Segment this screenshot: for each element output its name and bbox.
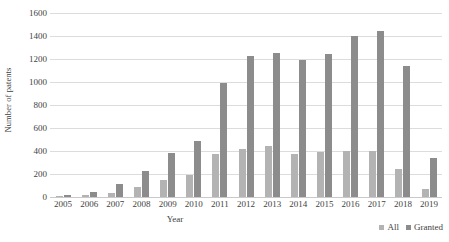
bar-all-2005 [56,196,63,197]
x-axis-tick-2019: 2019 [416,199,442,213]
bar-group-2007 [102,13,128,197]
bar-granted-2010 [194,141,201,197]
bar-all-2009 [160,180,167,197]
bar-all-2011 [212,154,219,197]
x-axis-tick-2008: 2008 [128,199,154,213]
bar-group-2011 [207,13,233,197]
y-axis-tick-labels: 16001400120010008006004002000 [16,0,50,205]
bar-granted-2012 [247,56,254,197]
y-axis-title-label: Number of patents [3,68,13,133]
x-axis-tick-2006: 2006 [76,199,102,213]
bar-group-2010 [181,13,207,197]
bar-granted-2016 [351,36,358,197]
y-axis-tick-1200: 1200 [29,54,47,64]
bar-granted-2005 [64,195,71,197]
x-axis-tick-2017: 2017 [364,199,390,213]
y-axis-tick-600: 600 [34,123,48,133]
x-axis-title-label: Year [167,214,184,224]
x-axis-tick-2013: 2013 [259,199,285,213]
bar-granted-2017 [377,31,384,197]
x-axis-tick-2015: 2015 [311,199,337,213]
bar-all-2014 [291,154,298,197]
bar-group-2018 [390,13,416,197]
bar-all-2018 [395,169,402,197]
bar-all-2019 [422,189,429,197]
bar-granted-2006 [90,192,97,197]
bars-layer [50,13,442,197]
x-axis-tick-2014: 2014 [285,199,311,213]
bar-group-2009 [155,13,181,197]
y-axis-title: Number of patents [0,0,16,200]
legend-swatch-icon-granted [406,225,411,230]
x-axis-tick-2012: 2012 [233,199,259,213]
y-axis-tick-400: 400 [34,146,48,156]
x-axis-tick-2016: 2016 [338,199,364,213]
x-axis-tick-2011: 2011 [207,199,233,213]
bar-granted-2008 [142,171,149,197]
bar-granted-2019 [430,158,437,197]
bar-group-2016 [338,13,364,197]
bar-granted-2013 [273,53,280,197]
bar-group-2006 [76,13,102,197]
bar-all-2016 [343,151,350,197]
bar-group-2013 [259,13,285,197]
x-axis-tick-2007: 2007 [102,199,128,213]
bar-all-2007 [108,193,115,197]
x-axis-tick-labels: 2005200620072008200920102011201220132014… [50,199,442,213]
x-axis-tick-2018: 2018 [390,199,416,213]
bar-granted-2015 [325,54,332,197]
y-axis-tick-1000: 1000 [29,77,47,87]
legend-label-granted: Granted [414,222,443,232]
bar-all-2017 [369,151,376,197]
bar-group-2008 [128,13,154,197]
x-axis-title: Year [50,214,300,224]
bar-granted-2011 [220,83,227,197]
bar-all-2006 [82,195,89,197]
y-axis-tick-1600: 1600 [29,8,47,18]
legend-entry-all[interactable]: All [379,222,399,232]
x-axis-tick-2010: 2010 [181,199,207,213]
bar-all-2015 [317,152,324,197]
legend-entry-granted[interactable]: Granted [406,222,443,232]
bar-group-2012 [233,13,259,197]
x-axis-tick-2005: 2005 [50,199,76,213]
y-axis-tick-800: 800 [34,100,48,110]
bar-group-2019 [416,13,442,197]
bar-all-2013 [265,146,272,197]
bar-chart: Number of patents 1600140012001000800600… [0,0,449,242]
bar-granted-2018 [403,66,410,197]
x-axis-tick-2009: 2009 [155,199,181,213]
bar-group-2017 [364,13,390,197]
chart-legend: AllGranted [379,222,443,232]
bar-all-2012 [239,149,246,197]
y-axis-tick-200: 200 [34,169,48,179]
bar-group-2005 [50,13,76,197]
y-axis-tick-0: 0 [43,192,48,202]
bar-all-2008 [134,187,141,197]
plot-area [50,13,442,197]
bar-all-2010 [186,175,193,197]
legend-swatch-icon-all [379,225,384,230]
bar-granted-2014 [299,60,306,197]
bar-group-2014 [285,13,311,197]
bar-granted-2007 [116,184,123,197]
y-axis-tick-1400: 1400 [29,31,47,41]
bar-granted-2009 [168,153,175,197]
legend-label-all: All [387,222,399,232]
gridline-0 [50,197,442,198]
bar-group-2015 [311,13,337,197]
